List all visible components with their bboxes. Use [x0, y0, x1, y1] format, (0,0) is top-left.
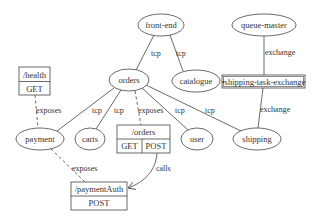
node-shipping-task-exchange[interactable]: •shipping-task-exchange: [222, 75, 306, 88]
edge-orders-payment: tcp: [57, 88, 114, 131]
node-label-carts: carts: [82, 134, 98, 144]
edge-label-health-payment: exposes: [36, 106, 61, 115]
edge-queuemaster-exchange: exchange: [264, 36, 296, 75]
edge-label-exchange-shipping: exchange: [260, 105, 291, 114]
node-orders-endpoint[interactable]: /orders GET POST: [117, 125, 170, 153]
node-payment[interactable]: payment: [16, 128, 64, 150]
edge-label-ordersendpoint-paymentauth: calls: [156, 164, 171, 173]
edge-label-orders-endpoint: exposes: [138, 106, 163, 115]
node-label-payment: payment: [25, 134, 55, 144]
edge-ordersendpoint-paymentauth: calls: [128, 153, 171, 188]
edge-label-queuemaster-exchange: exchange: [265, 48, 296, 57]
edge-label-payment-paymentauth: exposes: [72, 164, 97, 173]
edge-frontend-orders: tcp: [136, 35, 161, 70]
edge-label-orders-carts: tcp: [114, 106, 124, 115]
node-label-user: user: [190, 134, 204, 144]
node-label-health: /health: [23, 70, 47, 80]
edge-label-frontend-orders: tcp: [151, 49, 161, 58]
node-front-end[interactable]: front-end: [138, 14, 184, 36]
node-orders[interactable]: orders: [109, 69, 149, 91]
node-label-catalogue: catalogue: [180, 76, 213, 86]
edge-health-payment: exposes: [35, 95, 61, 128]
edge-label-frontend-catalogue: tcp: [176, 49, 186, 58]
edge-orders-endpoint: exposes: [135, 91, 163, 125]
node-catalogue[interactable]: catalogue: [172, 70, 220, 92]
node-label-front-end: front-end: [145, 20, 177, 30]
edge-exchange-shipping: exchange: [258, 88, 291, 128]
node-label-payment-auth: /paymentAuth: [75, 184, 124, 194]
edge-label-orders-user: tcp: [175, 106, 185, 115]
node-label-shipping-task-exchange: •shipping-task-exchange: [222, 77, 306, 87]
node-method-orders-post: POST: [146, 141, 168, 151]
node-health-endpoint[interactable]: /health GET: [19, 67, 50, 95]
node-method-orders-get: GET: [121, 141, 138, 151]
edge-payment-paymentauth: exposes: [51, 149, 97, 182]
node-payment-auth-endpoint[interactable]: /paymentAuth POST: [71, 182, 127, 210]
node-method-health-get: GET: [26, 84, 43, 94]
edge-label-orders-shipping: tcp: [205, 106, 215, 115]
node-label-orders: orders: [118, 75, 139, 85]
node-method-payment-auth-post: POST: [89, 198, 111, 208]
edge-frontend-catalogue: tcp: [170, 35, 186, 71]
service-dependency-diagram: tcp tcp exchange exchange exposes tcp tc…: [0, 0, 319, 223]
edge-label-orders-payment: tcp: [92, 106, 102, 115]
node-label-shipping: shipping: [242, 134, 272, 144]
node-carts[interactable]: carts: [75, 128, 105, 150]
node-shipping[interactable]: shipping: [233, 128, 281, 150]
node-user[interactable]: user: [181, 128, 213, 150]
node-label-queue-master: queue-master: [241, 20, 287, 30]
node-queue-master[interactable]: queue-master: [232, 14, 296, 36]
node-label-orders-endpoint: /orders: [132, 127, 156, 137]
